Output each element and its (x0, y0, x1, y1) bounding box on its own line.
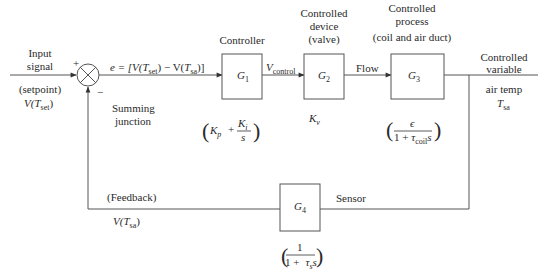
svg-text:(coil and air duct): (coil and air duct) (373, 31, 452, 44)
svg-text:Summing: Summing (112, 102, 155, 114)
svg-text:Controlled: Controlled (300, 7, 348, 19)
svg-text:variable: variable (486, 63, 522, 75)
svg-text:(setpoint): (setpoint) (19, 83, 61, 96)
svg-text:Input: Input (28, 47, 51, 59)
svg-text:Tsa: Tsa (497, 97, 510, 112)
minus-sign: − (97, 86, 103, 98)
plus-sign: + (73, 57, 79, 69)
svg-text:1 + τcoils: 1 + τcoils (394, 131, 431, 146)
controlled-variable-label: Controlled variable air temp Tsa (480, 51, 528, 112)
svg-text:process: process (396, 15, 429, 27)
setpoint-label: (setpoint) V(Tset) (19, 83, 61, 112)
valve-title: Controlled device (valve) (300, 7, 348, 46)
svg-text:(: ( (202, 118, 209, 143)
svg-text:1: 1 (297, 241, 303, 253)
input-signal-label: Input signal (27, 47, 53, 72)
svg-text:Kp: Kp (209, 124, 221, 139)
summing-junction-label: Summing junction (112, 102, 155, 127)
controller-title: Controller (219, 34, 265, 46)
valve-gain: Kv (308, 112, 320, 127)
process-transfer-function: ( ϵ 1 + τcoils ) (386, 117, 441, 146)
svg-text:Ki: Ki (237, 117, 248, 132)
svg-text:device: device (310, 20, 339, 32)
svg-text:+: + (228, 123, 234, 135)
svg-text:Controlled: Controlled (480, 51, 528, 63)
svg-text:(: ( (386, 117, 393, 142)
feedback-label: (Feedback) (107, 191, 157, 204)
svg-text:ϵ: ϵ (410, 117, 415, 129)
summing-junction (77, 64, 99, 86)
svg-text:junction: junction (114, 115, 152, 127)
svg-text:s: s (241, 131, 245, 143)
process-title: Controlled process (coil and air duct) (373, 2, 452, 44)
controller-transfer-function: ( Kp + Ki s ) (202, 117, 260, 143)
error-signal-label: e = [V(Tset) − V(Tsa)] (110, 61, 204, 76)
feedback-signal-label: V(Tsa) (113, 215, 140, 230)
svg-text:air temp: air temp (486, 83, 523, 95)
svg-text:signal: signal (27, 60, 53, 72)
control-block-diagram: Input signal (setpoint) V(Tset) + − Summ… (0, 0, 546, 278)
sensor-transfer-function: ( 1 1 +τss ) (281, 241, 323, 271)
svg-text:Controlled: Controlled (388, 2, 436, 14)
sensor-title: Sensor (336, 192, 366, 204)
svg-text:V(Tset): V(Tset) (24, 97, 53, 112)
svg-text:(valve): (valve) (308, 33, 339, 46)
v-control-label: Vcontrol (266, 61, 296, 76)
svg-text:): ) (253, 118, 260, 143)
svg-text:): ) (434, 117, 441, 142)
flow-label: Flow (356, 62, 379, 74)
svg-text:): ) (316, 243, 323, 268)
svg-text:1 +τss: 1 +τss (285, 256, 317, 271)
